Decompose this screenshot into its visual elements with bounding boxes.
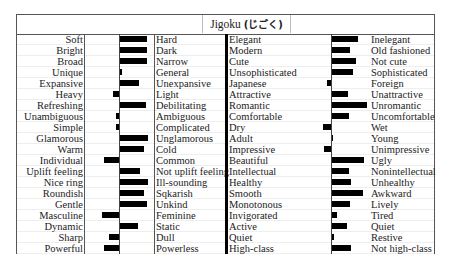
right-adjective: Cold xyxy=(156,144,226,155)
right-adjective: Unexpansive xyxy=(156,78,226,89)
bar-panel-2 xyxy=(331,102,367,108)
bar-panel-2 xyxy=(323,124,331,130)
divider-left-bars-end xyxy=(154,34,155,254)
right-adjective: Debilitating xyxy=(156,100,226,111)
bar-panel-2 xyxy=(324,146,331,152)
bar-panel-1 xyxy=(109,234,119,240)
left-adjective: Monotonous xyxy=(229,199,329,210)
left-adjective: Refreshing xyxy=(17,100,83,111)
chart-title: Jigoku (じごく) xyxy=(202,15,291,33)
right-adjective: Static xyxy=(156,221,226,232)
divider-left-label xyxy=(84,34,85,254)
right-adjective: Unkind xyxy=(156,199,226,210)
right-adjective: Not high-class xyxy=(371,243,437,254)
left-adjective: Individual xyxy=(17,155,83,166)
right-adjective: Old fashioned xyxy=(371,45,437,56)
left-adjective: Cute xyxy=(229,56,329,67)
left-adjective: Elegant xyxy=(229,34,329,45)
left-adjective: Powerful xyxy=(17,243,83,254)
right-adjective: Ill-sounding xyxy=(156,177,226,188)
right-adjective: Restive xyxy=(371,232,437,243)
bar-panel-1 xyxy=(119,36,147,42)
right-adjective: Light xyxy=(156,89,226,100)
left-adjective: Japanese xyxy=(229,78,329,89)
left-adjective: Uplift feeling xyxy=(17,166,83,177)
title-kana: (じごく) xyxy=(244,19,283,30)
right-adjective: Narrow xyxy=(156,56,226,67)
bar-panel-2 xyxy=(331,201,350,207)
bar-panel-1 xyxy=(119,58,147,64)
right-adjective: Uncomfortable xyxy=(371,111,437,122)
right-adjective: Powerless xyxy=(156,243,226,254)
right-adjective: General xyxy=(156,67,226,78)
right-adjective: Quiet xyxy=(371,221,437,232)
left-adjective: Healthy xyxy=(229,177,329,188)
left-adjective: Glamorous xyxy=(17,133,83,144)
right-adjective: Unromantic xyxy=(371,100,437,111)
right-adjective: Unimpressive xyxy=(371,144,437,155)
left-adjective: Masculine xyxy=(17,210,83,221)
divider-center-thick xyxy=(225,34,228,254)
left-adjective: Smooth xyxy=(229,188,329,199)
left-adjective: Active xyxy=(229,221,329,232)
bar-panel-2 xyxy=(331,245,351,251)
left-adjective: Comfortable xyxy=(229,111,329,122)
bar-panel-1 xyxy=(119,135,148,141)
right-adjective: Foreign xyxy=(371,78,437,89)
left-adjective: Romantic xyxy=(229,100,329,111)
left-adjective: Bright xyxy=(17,45,83,56)
bar-panel-1 xyxy=(104,245,119,251)
right-adjective: Complicated xyxy=(156,122,226,133)
title-latin: Jigoku xyxy=(210,18,241,30)
left-adjective: Impressive xyxy=(229,144,329,155)
axis-left-zero xyxy=(119,34,120,254)
bar-panel-2 xyxy=(331,168,349,174)
bar-panel-2 xyxy=(331,157,364,163)
bar-panel-2 xyxy=(331,179,351,185)
bar-panel-1 xyxy=(119,80,139,86)
left-adjective: Unsophisticated xyxy=(229,67,329,78)
right-adjective: Nonintellectual xyxy=(371,166,437,177)
bar-panel-1 xyxy=(119,179,148,185)
bar-panel-2 xyxy=(331,190,363,196)
bar-panel-2 xyxy=(331,223,347,229)
bar-panel-1 xyxy=(119,168,140,174)
left-adjective: Heavy xyxy=(17,89,83,100)
axis-right-zero xyxy=(331,34,332,254)
right-adjective: Ugly xyxy=(371,155,437,166)
left-adjective: Expansive xyxy=(17,78,83,89)
right-adjective: Young xyxy=(371,133,437,144)
bar-panel-1 xyxy=(119,102,146,108)
right-adjective: Feminine xyxy=(156,210,226,221)
left-adjective: Beautiful xyxy=(229,155,329,166)
left-adjective: High-class xyxy=(229,243,329,254)
right-adjective: Not uplift feeling xyxy=(156,166,226,177)
right-adjective: Common xyxy=(156,155,226,166)
bar-panel-2 xyxy=(331,47,350,53)
left-adjective: Soft xyxy=(17,34,83,45)
left-adjective: Invigorated xyxy=(229,210,329,221)
bar-panel-1 xyxy=(104,157,119,163)
title-row: Jigoku (じごく) xyxy=(17,15,434,35)
left-adjective: Unambiguous xyxy=(17,111,83,122)
right-adjective: Inelegant xyxy=(371,34,437,45)
right-adjective: Awkward xyxy=(371,188,437,199)
bar-panel-1 xyxy=(119,190,144,196)
right-adjective: Unglamorous xyxy=(156,133,226,144)
semantic-differential-table: Jigoku (じごく) SoftHardElegantInelegantBri… xyxy=(16,14,435,254)
left-adjective: Dry xyxy=(229,122,329,133)
left-adjective: Nice ring xyxy=(17,177,83,188)
right-adjective: Dull xyxy=(156,232,226,243)
right-adjective: Tired xyxy=(371,210,437,221)
left-adjective: Warm xyxy=(17,144,83,155)
right-adjective: Dark xyxy=(156,45,226,56)
left-adjective: Sharp xyxy=(17,232,83,243)
left-adjective: Unique xyxy=(17,67,83,78)
right-adjective: Not cute xyxy=(371,56,437,67)
right-adjective: Sophisticated xyxy=(371,67,437,78)
left-adjective: Dynamic xyxy=(17,221,83,232)
left-adjective: Broad xyxy=(17,56,83,67)
left-adjective: Attractive xyxy=(229,89,329,100)
right-adjective: Hard xyxy=(156,34,226,45)
left-adjective: Quiet xyxy=(229,232,329,243)
